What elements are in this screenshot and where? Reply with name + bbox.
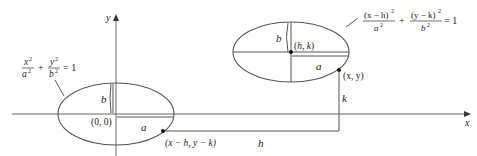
svg-text:2: 2 [391,8,394,14]
origin-label: (0, 0) [91,117,112,128]
x-axis-label: x [464,117,470,128]
ellipse-translation-diagram: x y b a (0, 0) (x − h, y − k) x 2 a 2 + … [0,0,477,156]
svg-text:2: 2 [438,8,441,14]
svg-text:(x − h): (x − h) [364,10,389,20]
svg-text:2: 2 [28,68,31,74]
right-b-brace [287,23,289,52]
left-b-brace [110,84,111,113]
svg-text:b: b [421,23,426,33]
y-axis-arrow-icon [113,14,119,21]
k-label: k [342,92,348,104]
original-point-label: (x, y) [343,71,364,82]
svg-text:2: 2 [29,56,32,62]
left-equation: x 2 a 2 + y 2 b 2 = 1 [22,56,76,79]
svg-text:= 1: = 1 [63,62,76,73]
right-a-label: a [316,60,322,72]
svg-text:2: 2 [427,22,430,28]
svg-text:2: 2 [380,22,383,28]
h-label: h [258,137,264,149]
svg-text:= 1: = 1 [444,15,457,26]
right-b-label: b [276,32,282,44]
svg-text:(y − k): (y − k) [411,10,436,20]
translated-point-label: (x − h, y − k) [165,138,216,149]
left-a-label: a [141,121,147,133]
right-equation: (x − h) 2 a 2 + (y − k) 2 b 2 = 1 [363,8,457,33]
svg-text:a: a [22,69,27,79]
left-equation-pointer [55,80,64,96]
center-label: (h, k) [294,41,314,52]
y-axis-label: y [105,12,111,23]
svg-text:2: 2 [55,56,58,62]
left-b-label: b [101,93,107,105]
svg-text:b: b [49,69,54,79]
svg-text:+: + [399,15,405,26]
svg-text:+: + [38,62,44,73]
svg-text:a: a [374,23,379,33]
center-point [289,50,293,54]
right-equation-pointer [346,18,358,27]
svg-text:2: 2 [55,68,58,74]
